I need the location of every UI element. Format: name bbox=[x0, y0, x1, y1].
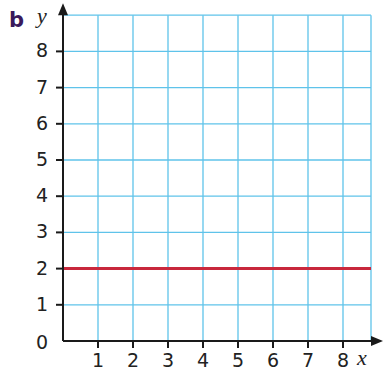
chart-canvas bbox=[0, 0, 386, 390]
y-tick-label: 2 bbox=[36, 257, 48, 279]
origin-label: 0 bbox=[36, 331, 48, 353]
x-tick-label: 1 bbox=[92, 349, 104, 371]
x-tick-label: 3 bbox=[162, 349, 174, 371]
x-tick-label: 7 bbox=[302, 349, 314, 371]
y-tick-label: 1 bbox=[36, 293, 48, 315]
x-tick-label: 4 bbox=[197, 349, 209, 371]
y-tick-label: 7 bbox=[36, 76, 48, 98]
y-tick-label: 4 bbox=[36, 184, 48, 206]
y-axis-label: y bbox=[37, 3, 47, 29]
x-axis-arrow-icon bbox=[371, 336, 383, 346]
y-tick-label: 6 bbox=[36, 112, 48, 134]
x-tick-label: 5 bbox=[232, 349, 244, 371]
y-tick-label: 3 bbox=[36, 220, 48, 242]
y-tick-label: 8 bbox=[36, 39, 48, 61]
x-axis-label: x bbox=[357, 345, 367, 371]
x-tick-label: 6 bbox=[267, 349, 279, 371]
y-tick-label: 5 bbox=[36, 148, 48, 170]
y-axis-arrow-icon bbox=[58, 3, 68, 15]
x-tick-label: 2 bbox=[127, 349, 139, 371]
x-tick-label: 8 bbox=[337, 349, 349, 371]
